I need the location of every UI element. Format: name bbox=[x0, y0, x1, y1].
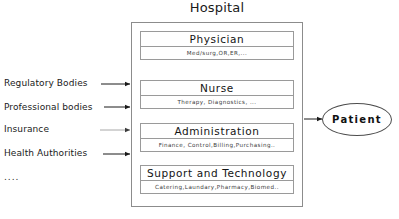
external-entity-health-authorities: Health Authorities bbox=[4, 148, 87, 158]
external-entity-professional-bodies: Professional bodies bbox=[4, 102, 93, 112]
department-card-physician[interactable]: Physician Med/surg,OR,ER,... bbox=[140, 31, 294, 60]
department-title: Nurse bbox=[141, 81, 293, 96]
patient-label: Patient bbox=[322, 103, 392, 136]
department-title: Support and Technology bbox=[141, 166, 293, 181]
department-card-support-and-technology[interactable]: Support and Technology Catering,Laundary… bbox=[140, 165, 294, 194]
department-card-nurse[interactable]: Nurse Therapy, Diagnostics, ... bbox=[140, 80, 294, 109]
external-entity-insurance: Insurance bbox=[4, 124, 49, 134]
department-title: Physician bbox=[141, 32, 293, 47]
external-entity-ellipsis: .... bbox=[4, 172, 19, 182]
department-detail: Finance, Control,Billing,Purchasing.. bbox=[141, 139, 293, 151]
department-title: Administration bbox=[141, 124, 293, 139]
diagram-canvas: Hospital Physician Med/surg,OR,ER,... Nu… bbox=[0, 0, 399, 219]
department-card-administration[interactable]: Administration Finance, Control,Billing,… bbox=[140, 123, 294, 152]
bottom-edge-artifact: .. bbox=[5, 214, 12, 219]
department-detail: Catering,Laundary,Pharmacy,Biomed.. bbox=[141, 181, 293, 193]
department-detail: Therapy, Diagnostics, ... bbox=[141, 96, 293, 108]
department-detail: Med/surg,OR,ER,... bbox=[141, 47, 293, 59]
external-entity-regulatory-bodies: Regulatory Bodies bbox=[4, 78, 88, 88]
page-title: Hospital bbox=[131, 0, 303, 15]
